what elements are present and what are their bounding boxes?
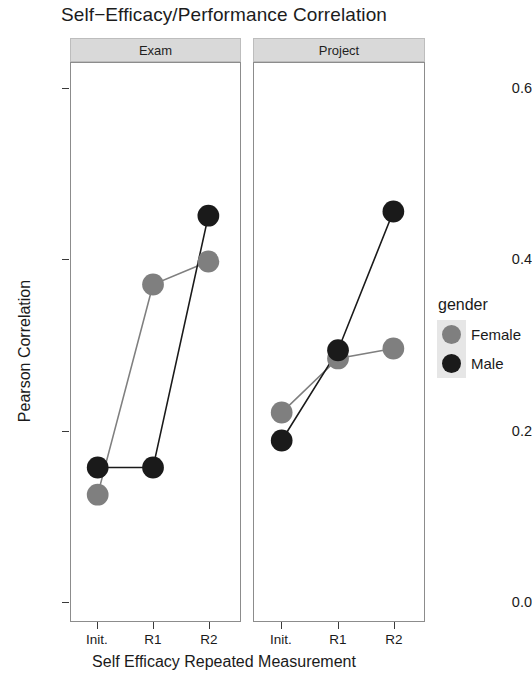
chart-title: Self−Efficacy/Performance Correlation	[0, 4, 448, 26]
data-point	[198, 205, 220, 227]
circle-icon	[442, 325, 461, 344]
legend-key-female	[437, 320, 466, 349]
x-tick-mark-project-2	[394, 622, 395, 629]
legend-key-male	[437, 349, 466, 378]
data-point	[271, 430, 293, 452]
plot-panel-exam	[70, 62, 241, 622]
y-tick-label-2: 0.4	[486, 251, 532, 267]
data-point	[198, 251, 220, 273]
x-tick-mark-project-0	[281, 622, 282, 629]
y-tick-mark-0	[62, 602, 69, 603]
x-tick-mark-project-1	[338, 622, 339, 629]
y-tick-label-0: 0.0	[486, 594, 532, 610]
x-tick-label-project-2: R2	[369, 632, 419, 647]
y-tick-label-1: 0.2	[486, 423, 532, 439]
data-point	[87, 457, 109, 479]
series-line-male	[282, 212, 394, 441]
legend-title: gender	[437, 296, 532, 314]
data-point	[327, 339, 349, 361]
x-tick-mark-exam-0	[97, 622, 98, 629]
x-tick-label-exam-0: Init.	[72, 632, 122, 647]
y-tick-mark-3	[62, 88, 69, 89]
panel-strip-exam: Exam	[70, 38, 241, 62]
data-point	[382, 201, 404, 223]
x-tick-mark-exam-2	[209, 622, 210, 629]
legend-label-male: Male	[471, 355, 504, 372]
y-tick-mark-1	[62, 431, 69, 432]
chart-figure: Self−Efficacy/Performance Correlation Pe…	[0, 0, 532, 676]
x-tick-label-exam-1: R1	[128, 632, 178, 647]
data-point	[142, 457, 164, 479]
x-tick-label-exam-2: R2	[184, 632, 234, 647]
legend-label-female: Female	[471, 326, 521, 343]
data-point	[271, 402, 293, 424]
legend-item-male[interactable]: Male	[437, 349, 532, 378]
plot-area-project	[254, 63, 424, 621]
panel-strip-label-project: Project	[319, 43, 359, 58]
panel-strip-label-exam: Exam	[139, 43, 172, 58]
circle-icon	[442, 354, 461, 373]
x-tick-label-project-1: R1	[313, 632, 363, 647]
legend: gender Female Male	[437, 296, 532, 378]
x-tick-label-project-0: Init.	[256, 632, 306, 647]
data-point	[142, 274, 164, 296]
plot-panel-project	[253, 62, 425, 622]
x-axis-title: Self Efficacy Repeated Measurement	[0, 653, 448, 671]
data-point	[87, 484, 109, 506]
y-tick-mark-2	[62, 259, 69, 260]
legend-item-female[interactable]: Female	[437, 320, 532, 349]
panel-strip-project: Project	[253, 38, 425, 62]
y-axis-title: Pearson Correlation	[16, 101, 34, 601]
data-point	[382, 338, 404, 360]
x-tick-mark-exam-1	[153, 622, 154, 629]
plot-area-exam	[71, 63, 240, 621]
y-tick-label-3: 0.6	[486, 80, 532, 96]
